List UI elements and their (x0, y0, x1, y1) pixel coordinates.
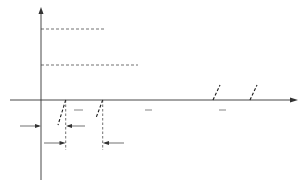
y-axis-arrow-icon (39, 7, 44, 14)
angle1-left-arrowhead-icon (35, 124, 41, 128)
i-end-extension (213, 85, 220, 100)
angle2-left-arrowhead-icon (60, 141, 66, 145)
angle1-right-arrowhead-icon (66, 124, 72, 128)
x-axis-arrow-icon (290, 98, 298, 103)
angle2-right-arrowhead-icon (103, 141, 109, 145)
i-start-extension (58, 100, 66, 125)
v-end-extension (250, 85, 257, 100)
v-start-extension (96, 100, 103, 118)
phase-diagram (0, 0, 303, 186)
sine-plot (0, 0, 303, 186)
